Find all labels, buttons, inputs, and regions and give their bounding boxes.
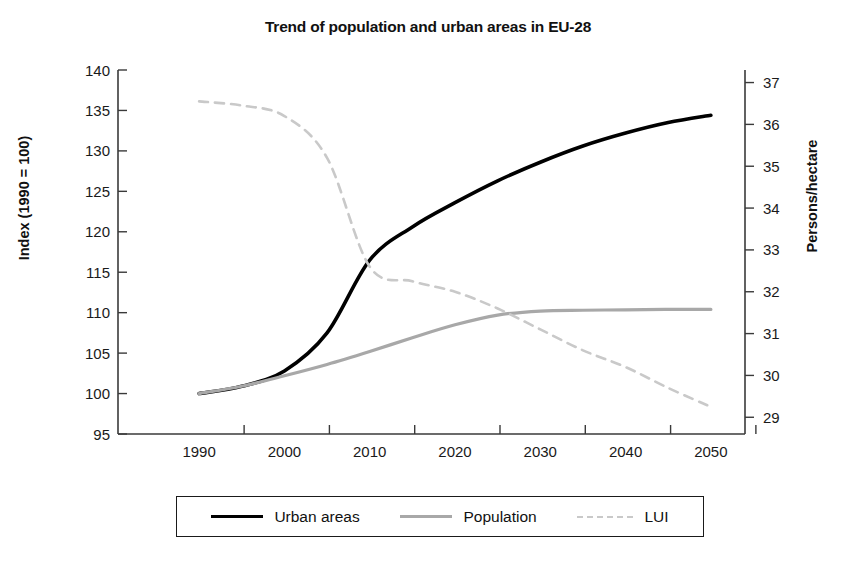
y-axis-right-tick-label: 33 [763, 241, 780, 258]
legend-label-urban-areas: Urban areas [274, 508, 359, 526]
data-series-line-urban-areas [199, 115, 711, 393]
x-axis-tick-label: 2000 [268, 443, 301, 460]
legend-swatch-lui [577, 516, 633, 518]
legend-swatch-urban-areas [211, 515, 263, 518]
y-axis-left-tick-label: 110 [86, 304, 110, 321]
x-axis-tick-label: 2020 [438, 443, 471, 460]
legend-swatch-population [400, 515, 452, 518]
y-axis-right-tick-label: 36 [763, 116, 780, 133]
y-axis-right-tick-label: 32 [763, 283, 780, 300]
data-series-group [199, 101, 711, 406]
legend-item-urban-areas: Urban areas [211, 508, 359, 526]
x-axis-tick-label: 2010 [353, 443, 386, 460]
y-axis-right-tick-label: 31 [763, 325, 780, 342]
y-axis-left-tick-label: 105 [85, 345, 110, 362]
x-axis-tick-label: 1990 [182, 443, 215, 460]
y-axis-left-tick-label: 95 [93, 426, 110, 443]
line-chart-plot: 9510010511011512012513013514029303132333… [0, 0, 856, 571]
legend-item-population: Population [400, 508, 536, 526]
y-axis-left-tick-label: 130 [85, 142, 110, 159]
y-axis-right-tick-label: 34 [763, 200, 780, 217]
y-axis-right-tick-label: 30 [763, 367, 780, 384]
legend-item-lui: LUI [577, 508, 668, 526]
y-axis-right-tick-label: 29 [763, 409, 780, 426]
data-series-line-population [199, 309, 711, 393]
legend-label-lui: LUI [644, 508, 668, 526]
chart-figure: Trend of population and urban areas in E… [0, 0, 856, 571]
y-axis-left-tick-label: 125 [85, 183, 110, 200]
y-axis-left-tick-label: 100 [85, 385, 110, 402]
x-axis-tick-label: 2030 [524, 443, 557, 460]
y-axis-right-tick-label: 37 [763, 74, 780, 91]
x-axis-tick-label: 2040 [609, 443, 642, 460]
y-axis-left-tick-label: 115 [86, 264, 110, 281]
y-axis-left-tick-label: 140 [85, 62, 110, 79]
data-series-line-lui [199, 101, 711, 406]
legend-label-population: Population [463, 508, 536, 526]
chart-legend: Urban areas Population LUI [176, 496, 704, 537]
y-axis-left-tick-label: 135 [85, 102, 110, 119]
y-axis-right-tick-label: 35 [763, 158, 780, 175]
x-axis-tick-label: 2050 [694, 443, 727, 460]
y-axis-left-tick-label: 120 [85, 223, 110, 240]
